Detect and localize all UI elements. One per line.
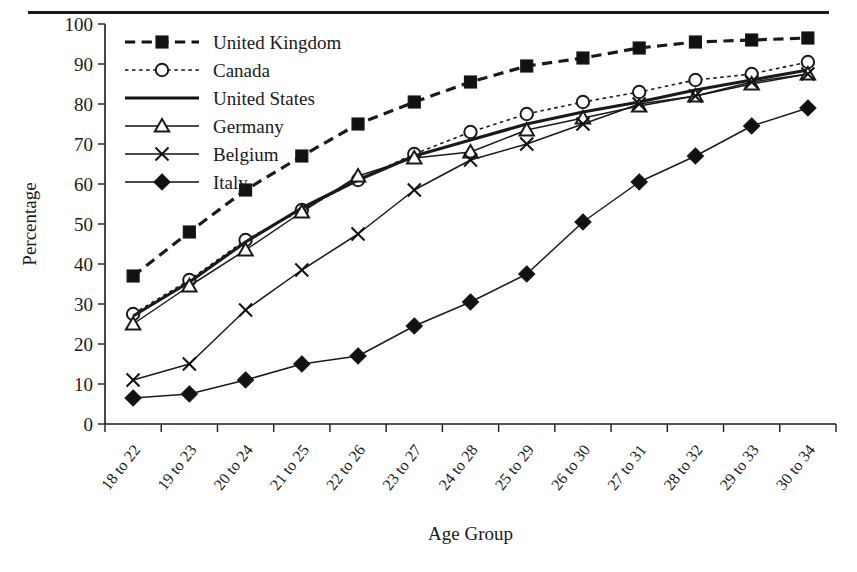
y-tick-label: 0 <box>84 414 94 435</box>
marker-filled-square <box>746 34 758 46</box>
marker-filled-diamond <box>154 174 170 190</box>
marker-filled-square <box>521 60 533 72</box>
x-tick-label: 21 to 25 <box>266 441 312 493</box>
marker-cross-x <box>295 264 308 277</box>
marker-filled-square <box>802 32 814 44</box>
legend-label: Germany <box>213 116 284 137</box>
marker-filled-diamond <box>800 100 816 116</box>
marker-filled-diamond <box>406 318 422 334</box>
y-tick-label: 20 <box>74 334 93 355</box>
marker-filled-diamond <box>350 348 366 364</box>
x-tick-label: 29 to 33 <box>716 441 762 493</box>
y-tick-label: 40 <box>74 254 93 275</box>
marker-filled-diamond <box>463 294 479 310</box>
x-tick-label: 22 to 26 <box>323 441 369 493</box>
marker-cross-x <box>183 358 196 371</box>
marker-filled-square <box>127 270 139 282</box>
x-tick-label: 19 to 23 <box>154 441 200 493</box>
y-tick-label: 80 <box>74 94 93 115</box>
marker-cross-x <box>127 374 140 387</box>
marker-cross-x <box>239 304 252 317</box>
marker-filled-diamond <box>238 372 254 388</box>
y-tick-label: 100 <box>65 14 94 35</box>
marker-filled-diamond <box>631 174 647 190</box>
x-tick-label: 25 to 29 <box>491 441 537 493</box>
marker-filled-square <box>689 36 701 48</box>
y-tick-label: 30 <box>74 294 93 315</box>
x-tick-label: 24 to 28 <box>435 441 481 493</box>
legend-entry-canada[interactable]: Canada <box>125 60 271 81</box>
x-tick-label: 30 to 34 <box>773 441 819 493</box>
y-tick-label: 60 <box>74 174 93 195</box>
legend-label: Italy <box>213 172 248 193</box>
marker-filled-square <box>408 96 420 108</box>
marker-open-circle <box>633 86 645 98</box>
legend-label: Canada <box>213 60 271 81</box>
x-tick-label: 27 to 31 <box>604 441 650 493</box>
figure-container: 0102030405060708090100Percentage18 to 22… <box>0 0 857 572</box>
y-axis-title: Percentage <box>19 182 40 265</box>
marker-filled-square <box>183 226 195 238</box>
marker-cross-x <box>408 184 421 197</box>
y-tick-label: 90 <box>74 54 93 75</box>
marker-filled-square <box>465 76 477 88</box>
line-chart: 0102030405060708090100Percentage18 to 22… <box>0 0 857 572</box>
y-tick-label: 10 <box>74 374 93 395</box>
marker-filled-square <box>296 150 308 162</box>
marker-filled-diamond <box>125 390 141 406</box>
marker-cross-x <box>352 228 365 241</box>
marker-filled-square <box>352 118 364 130</box>
cropped-caption-strip <box>16 568 836 572</box>
y-tick-label: 70 <box>74 134 93 155</box>
legend-label: Belgium <box>213 144 279 165</box>
series-polyline <box>133 74 808 324</box>
legend-entry-united-states[interactable]: United States <box>125 88 315 109</box>
marker-filled-square <box>577 52 589 64</box>
marker-open-circle <box>577 96 589 108</box>
y-tick-label: 50 <box>74 214 93 235</box>
x-tick-label: 23 to 27 <box>379 441 425 493</box>
legend-entry-italy[interactable]: Italy <box>125 172 248 193</box>
legend-entry-germany[interactable]: Germany <box>125 116 284 137</box>
legend-entry-united-kingdom[interactable]: United Kingdom <box>125 32 341 53</box>
marker-filled-diamond <box>181 386 197 402</box>
marker-cross-x <box>520 138 533 151</box>
marker-open-circle <box>464 126 476 138</box>
x-tick-label: 20 to 24 <box>210 441 256 493</box>
marker-filled-diamond <box>294 356 310 372</box>
marker-open-circle <box>521 108 533 120</box>
marker-filled-square <box>156 36 168 48</box>
x-tick-label: 18 to 22 <box>98 441 144 493</box>
marker-filled-square <box>633 42 645 54</box>
x-axis-title: Age Group <box>428 523 513 544</box>
x-tick-label: 26 to 30 <box>548 441 594 493</box>
legend-entry-belgium[interactable]: Belgium <box>125 144 279 165</box>
marker-filled-diamond <box>744 118 760 134</box>
legend-label: United States <box>213 88 315 109</box>
marker-open-circle <box>689 74 701 86</box>
legend-label: United Kingdom <box>213 32 341 53</box>
marker-open-circle <box>156 64 168 76</box>
marker-filled-diamond <box>687 148 703 164</box>
x-tick-label: 28 to 32 <box>660 441 706 493</box>
